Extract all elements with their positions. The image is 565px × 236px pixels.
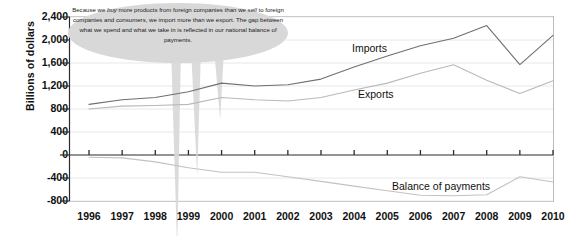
callout-emphasis: sell xyxy=(248,6,257,13)
callout-annotation-text: Because we buy more products from foreig… xyxy=(70,5,286,44)
callout-run: we xyxy=(238,6,247,13)
series-label-balance-of-payments: Balance of payments xyxy=(392,180,490,192)
chart-figure: Billions of dollars 2,4002,0001,6001,200… xyxy=(0,0,565,236)
x-axis-tick-label: 2010 xyxy=(533,211,565,222)
series-label-exports: Exports xyxy=(358,88,394,100)
callout-emphasis: buy xyxy=(107,6,117,13)
callout-run: more products from foreign companies tha… xyxy=(117,6,237,13)
callout-run: Because we xyxy=(72,6,107,13)
series-label-imports: Imports xyxy=(352,42,387,54)
